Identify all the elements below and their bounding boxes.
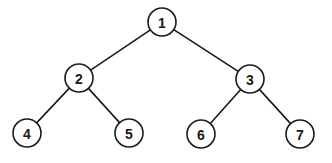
edge-1-3 — [174, 30, 238, 72]
node-label: 6 — [197, 127, 205, 143]
node-label: 3 — [246, 72, 254, 88]
tree-node-5: 5 — [115, 119, 143, 147]
tree-node-3: 3 — [236, 65, 264, 93]
tree-svg: 1234567 — [0, 0, 332, 163]
node-label: 1 — [158, 15, 166, 31]
edge-3-6 — [210, 89, 240, 123]
tree-node-4: 4 — [13, 119, 41, 147]
edge-2-5 — [88, 88, 119, 122]
node-label: 5 — [125, 126, 133, 142]
edge-3-7 — [259, 89, 290, 123]
edge-1-2 — [91, 30, 151, 70]
tree-diagram: 1234567 — [0, 0, 332, 163]
tree-node-7: 7 — [286, 120, 314, 148]
tree-node-2: 2 — [65, 64, 93, 92]
tree-node-6: 6 — [187, 120, 215, 148]
edge-2-4 — [37, 88, 70, 123]
nodes-group: 1234567 — [13, 8, 314, 148]
node-label: 2 — [75, 71, 83, 87]
node-label: 4 — [23, 126, 31, 142]
node-label: 7 — [296, 127, 304, 143]
tree-node-1: 1 — [148, 8, 176, 36]
